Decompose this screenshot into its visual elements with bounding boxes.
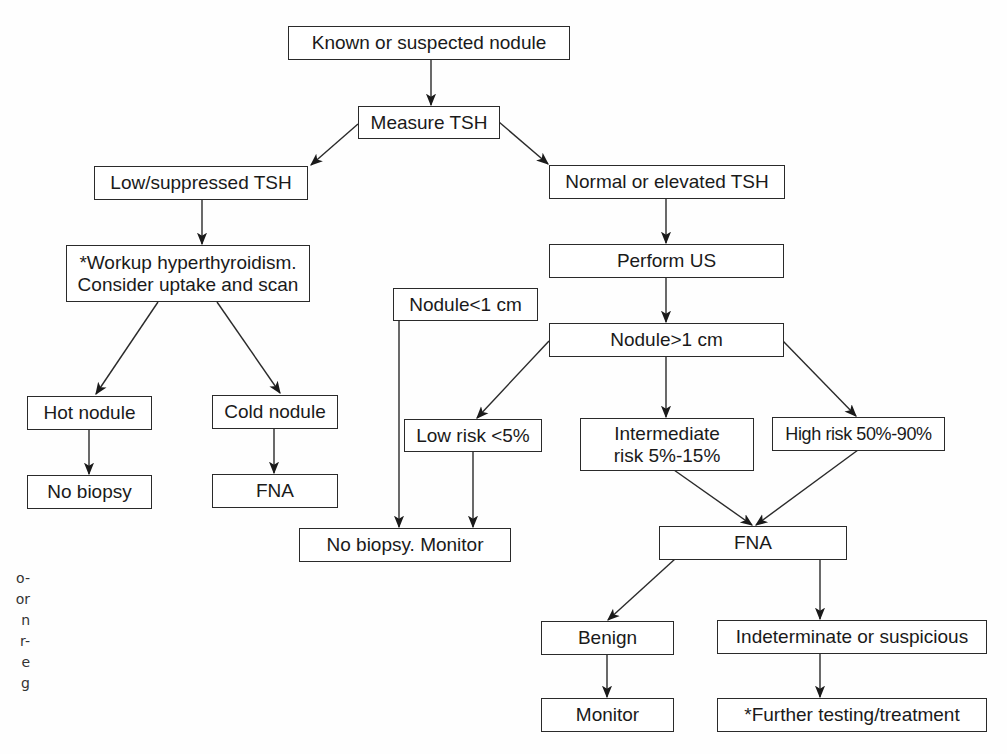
node-indeterminate-or-suspicious: Indeterminate or suspicious xyxy=(717,620,987,654)
node-workup-hyperthyroidism: *Workup hyperthyroidism. Consider uptake… xyxy=(66,245,310,302)
edge-large-high xyxy=(783,341,856,416)
node-cold-nodule: Cold nodule xyxy=(212,395,338,429)
node-perform-us: Perform US xyxy=(549,244,784,278)
node-further-testing-treatment: *Further testing/treatment xyxy=(717,698,987,732)
edge-workup-cold xyxy=(217,302,280,393)
node-intermediate-risk: Intermediate risk 5%-15% xyxy=(580,418,754,471)
edge-fna-benign xyxy=(608,559,675,620)
node-nodule-less-1cm: Nodule<1 cm xyxy=(393,288,538,321)
edge-intermediate-fna xyxy=(674,470,752,525)
edge-workup-hot xyxy=(96,302,158,394)
node-measure-tsh: Measure TSH xyxy=(358,106,500,139)
node-low-suppressed-tsh: Low/suppressed TSH xyxy=(94,166,308,200)
node-benign: Benign xyxy=(541,621,674,655)
caption-fragment: n xyxy=(0,610,30,632)
edge-high-fna xyxy=(756,450,858,525)
node-monitor: Monitor xyxy=(541,698,674,732)
edge-large-low xyxy=(477,341,549,418)
caption-fragment: o- xyxy=(0,568,30,590)
caption-fragment: e xyxy=(0,652,30,674)
node-low-risk: Low risk <5% xyxy=(404,419,542,452)
edge-tsh-normal xyxy=(499,122,548,164)
node-known-or-suspected-nodule: Known or suspected nodule xyxy=(288,26,570,60)
node-no-biopsy-monitor: No biopsy. Monitor xyxy=(299,528,511,562)
node-no-biopsy: No biopsy xyxy=(27,475,152,509)
node-high-risk: High risk 50%-90% xyxy=(772,417,945,451)
node-fna-right: FNA xyxy=(659,526,847,560)
flowchart-canvas: Known or suspected nodule Measure TSH Lo… xyxy=(0,0,1007,754)
node-nodule-greater-1cm: Nodule>1 cm xyxy=(549,323,784,357)
caption-fragment: r- xyxy=(0,631,30,653)
caption-fragment: g xyxy=(0,673,30,695)
edge-tsh-low xyxy=(311,124,358,165)
caption-fragment: or xyxy=(0,589,30,611)
node-fna-left: FNA xyxy=(212,474,338,508)
node-hot-nodule: Hot nodule xyxy=(27,396,152,430)
node-normal-or-elevated-tsh: Normal or elevated TSH xyxy=(549,165,785,199)
